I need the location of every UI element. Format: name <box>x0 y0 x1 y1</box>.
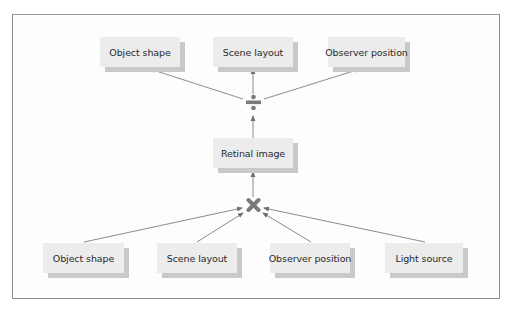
node-bottom-object-shape: Object shape <box>43 243 124 273</box>
multiply-icon <box>249 200 259 210</box>
divide-icon <box>246 95 261 111</box>
node-bottom-observer-position: Observer position <box>270 243 350 273</box>
arrow-object-shape-to-multiply <box>84 208 242 242</box>
node-label: Object shape <box>100 37 180 67</box>
node-label: Scene layout <box>213 37 293 67</box>
node-label: Retinal image <box>213 138 293 168</box>
arrow-divide-to-observer-position <box>264 69 360 99</box>
arrow-light-source-to-multiply <box>264 208 425 242</box>
node-label: Observer position <box>328 37 405 67</box>
node-label: Observer position <box>270 243 350 273</box>
node-label: Scene layout <box>157 243 237 273</box>
node-retinal-image: Retinal image <box>213 138 293 168</box>
node-top-observer-position: Observer position <box>328 37 405 67</box>
node-label: Light source <box>385 243 463 273</box>
arrow-divide-to-object-shape <box>150 69 243 99</box>
node-top-object-shape: Object shape <box>100 37 180 67</box>
arrow-observer-position-to-multiply <box>263 213 311 242</box>
arrow-scene-layout-to-multiply <box>197 213 243 242</box>
node-bottom-scene-layout: Scene layout <box>157 243 237 273</box>
node-bottom-light-source: Light source <box>385 243 463 273</box>
node-label: Object shape <box>43 243 124 273</box>
node-top-scene-layout: Scene layout <box>213 37 293 67</box>
